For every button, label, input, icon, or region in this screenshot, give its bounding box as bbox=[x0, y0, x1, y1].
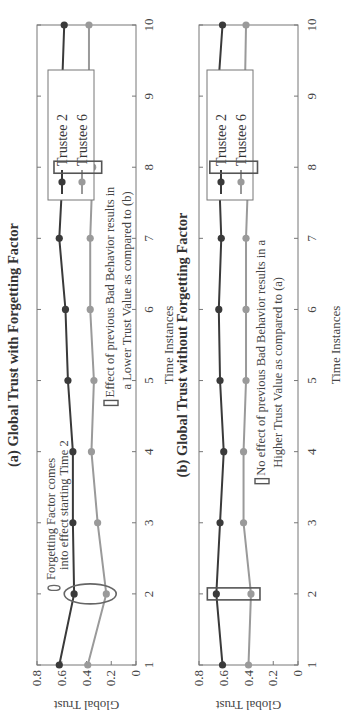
data-point-trustee2 bbox=[216, 519, 223, 526]
x-tick-label: 1 bbox=[304, 662, 319, 669]
y-tick-label: 0.6 bbox=[216, 670, 231, 687]
y-tick-label: 0.4 bbox=[241, 670, 256, 687]
x-tick-label: 5 bbox=[304, 377, 319, 384]
x-tick-label: 8 bbox=[304, 164, 319, 171]
x-tick-label: 7 bbox=[304, 235, 319, 242]
data-point-trustee2 bbox=[215, 306, 222, 313]
y-tick-label: 0.2 bbox=[103, 670, 118, 686]
x-tick-label: 2 bbox=[141, 591, 156, 598]
legend-marker bbox=[217, 178, 224, 185]
annotation-text: Effect of previous Bad Behavior results … bbox=[103, 186, 117, 398]
annotation-text: No effect of previous Bad Behavior resul… bbox=[254, 239, 268, 475]
data-point-trustee2 bbox=[56, 661, 63, 668]
annotation-rect-symbol bbox=[104, 400, 118, 405]
x-tick-label: 4 bbox=[304, 448, 319, 455]
figure: (a) Global Trust with Forgetting Factor1… bbox=[0, 0, 354, 721]
data-point-trustee2 bbox=[62, 306, 69, 313]
x-tick-label: 10 bbox=[141, 19, 156, 32]
data-point-trustee6 bbox=[103, 590, 110, 597]
chart-title: (a) Global Trust with Forgetting Factor bbox=[5, 222, 22, 466]
annotation-text: into effect starting Time 2 bbox=[57, 440, 71, 570]
annotation-rect-symbol bbox=[255, 479, 269, 484]
x-tick-label: 3 bbox=[304, 520, 319, 527]
data-point-trustee6 bbox=[94, 519, 101, 526]
data-point-trustee2 bbox=[218, 235, 225, 242]
data-point-trustee6 bbox=[242, 377, 249, 384]
x-tick-label: 6 bbox=[141, 306, 156, 313]
data-point-trustee6 bbox=[84, 661, 91, 668]
x-tick-label: 5 bbox=[141, 377, 156, 384]
y-tick-label: 0.8 bbox=[191, 670, 206, 686]
chart-panel-a: (a) Global Trust with Forgetting Factor1… bbox=[5, 19, 176, 714]
x-tick-label: 10 bbox=[304, 19, 319, 32]
y-tick-label: 0.6 bbox=[54, 670, 69, 687]
x-tick-label: 2 bbox=[304, 591, 319, 598]
data-point-trustee6 bbox=[87, 306, 94, 313]
legend-label: Trustee 2 bbox=[214, 114, 229, 166]
legend-marker bbox=[237, 178, 244, 185]
x-tick-label: 1 bbox=[141, 662, 156, 669]
legend-label: Trustee 2 bbox=[55, 114, 70, 166]
legend-label: Trustee 6 bbox=[75, 114, 90, 166]
y-tick-label: 0.2 bbox=[265, 670, 280, 686]
data-point-trustee6 bbox=[242, 235, 249, 242]
data-point-trustee2 bbox=[213, 590, 220, 597]
y-tick-label: 0 bbox=[128, 670, 143, 677]
x-tick-label: 9 bbox=[304, 93, 319, 100]
data-point-trustee2 bbox=[64, 377, 71, 384]
data-point-trustee2 bbox=[219, 661, 226, 668]
y-tick-label: 0.8 bbox=[29, 670, 44, 686]
data-point-trustee2 bbox=[219, 21, 226, 28]
x-tick-label: 3 bbox=[141, 520, 156, 527]
data-point-trustee6 bbox=[240, 519, 247, 526]
data-point-trustee6 bbox=[88, 448, 95, 455]
y-tick-label: 0 bbox=[290, 670, 305, 677]
y-axis-label: Global Trust bbox=[215, 698, 281, 713]
data-point-trustee6 bbox=[90, 377, 97, 384]
data-point-trustee2 bbox=[216, 377, 223, 384]
chart-panel-b: (b) Global Trust without Forgetting Fact… bbox=[174, 19, 343, 714]
data-point-trustee6 bbox=[242, 306, 249, 313]
data-point-trustee6 bbox=[242, 21, 249, 28]
annotation-text: Higher Trust Value as compared to (a) bbox=[271, 277, 285, 468]
data-point-trustee2 bbox=[61, 21, 68, 28]
data-point-trustee6 bbox=[87, 235, 94, 242]
annotation-text: a Lower Trust Value as compared to (b) bbox=[120, 191, 134, 389]
x-tick-label: 4 bbox=[141, 448, 156, 455]
x-tick-label: 7 bbox=[141, 235, 156, 242]
x-tick-label: 9 bbox=[141, 93, 156, 100]
data-point-trustee6 bbox=[240, 448, 247, 455]
x-tick-label: 8 bbox=[141, 164, 156, 171]
chart-title: (b) Global Trust without Forgetting Fact… bbox=[174, 212, 191, 477]
x-axis-label: Time Instances bbox=[328, 306, 343, 385]
data-point-trustee6 bbox=[247, 590, 254, 597]
annotation-text: Forgetting Factor comes bbox=[44, 458, 58, 580]
data-point-trustee6 bbox=[245, 661, 252, 668]
annotation-ellipse-symbol bbox=[48, 585, 60, 590]
legend-marker bbox=[78, 178, 85, 185]
data-point-trustee6 bbox=[85, 21, 92, 28]
y-axis-label: Global Trust bbox=[53, 698, 119, 713]
data-point-trustee2 bbox=[56, 235, 63, 242]
x-tick-label: 6 bbox=[304, 306, 319, 313]
figure-stage: (a) Global Trust with Forgetting Factor1… bbox=[0, 0, 354, 721]
data-point-trustee2 bbox=[220, 448, 227, 455]
y-tick-label: 0.4 bbox=[79, 670, 94, 687]
legend-label: Trustee 6 bbox=[234, 114, 249, 166]
legend-marker bbox=[58, 178, 65, 185]
data-point-trustee2 bbox=[71, 590, 78, 597]
